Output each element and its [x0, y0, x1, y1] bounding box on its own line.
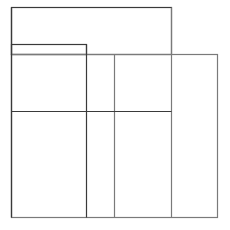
- rectangle-diagram: [0, 0, 230, 230]
- top-rect: [12, 8, 172, 55]
- small-rect: [12, 45, 87, 55]
